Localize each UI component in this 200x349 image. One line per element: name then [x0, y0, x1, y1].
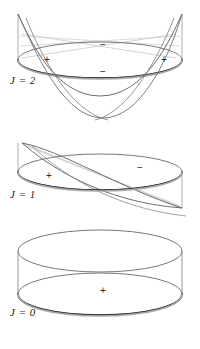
sign-plus-left: +	[44, 55, 50, 65]
panel-j2: J = 2 + + − −	[0, 0, 200, 115]
j2-diagram	[0, 0, 200, 120]
sign-plus-right: +	[161, 55, 167, 65]
panel-j1: J = 1 + −	[0, 130, 200, 230]
j0-front-rim	[18, 294, 182, 315]
sign-plus-j1: +	[46, 171, 52, 181]
j1-diagram	[0, 130, 200, 230]
j1-plane-strand	[30, 144, 186, 216]
sign-minus-lower: −	[100, 67, 106, 77]
panel-j0: J = 0 +	[0, 240, 200, 349]
panel-label-j2: J = 2	[10, 74, 36, 86]
j2-surface-strand-left	[26, 18, 108, 120]
j0-front-rim-shadow	[18, 294, 182, 316]
panel-label-j0: J = 0	[10, 306, 36, 318]
sign-minus-upper: −	[100, 40, 106, 50]
j2-surface-strand-right	[95, 18, 174, 120]
sign-plus-j0: +	[100, 286, 106, 296]
sign-minus-j1: −	[137, 163, 143, 173]
panel-label-j1: J = 1	[10, 188, 36, 200]
j0-top-ellipse	[18, 230, 182, 272]
